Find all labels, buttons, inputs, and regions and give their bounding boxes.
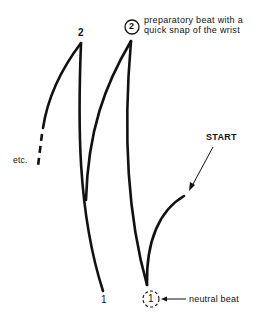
etc-dashed-continuation (38, 134, 42, 166)
prep-downstroke (127, 41, 147, 285)
start-label: START (206, 133, 237, 142)
circled-two-number: 2 (129, 22, 134, 31)
beat-pattern-drawing (0, 0, 256, 323)
beat-two-left-arc (43, 43, 81, 128)
neutral-beat-number: 1 (148, 294, 154, 304)
start-arrow-line (192, 147, 213, 186)
beat-two-label: 2 (78, 28, 84, 38)
beat-one-label: 1 (101, 295, 107, 305)
neutral-arrow-head (161, 297, 167, 302)
prep-note-line1: preparatory beat with a (144, 15, 243, 25)
start-curve (147, 196, 184, 285)
etc-label: etc. (13, 156, 28, 165)
start-arrow-head (189, 182, 195, 191)
neutral-beat-label: neutral beat (189, 295, 239, 304)
prep-note-line2: quick snap of the wrist (144, 25, 243, 35)
beat-two-downstroke (79, 43, 103, 291)
prep-beat-note: preparatory beat with a quick snap of th… (144, 15, 243, 35)
prep-upstroke (86, 41, 131, 200)
